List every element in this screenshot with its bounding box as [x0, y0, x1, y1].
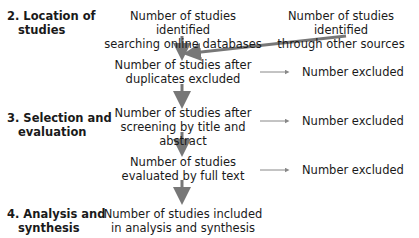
box-text: evaluated by full text	[112, 169, 254, 183]
stage-label: synthesis	[7, 221, 105, 235]
box-text: through other sources	[270, 37, 412, 51]
excluded-label-1: Number excluded	[302, 65, 404, 79]
excluded-label-3: Number excluded	[302, 163, 404, 177]
box-text: Number of studies identified	[270, 9, 412, 37]
box-text: in analysis and synthesis	[102, 221, 264, 235]
stage-selection: 3. Selection and evaluation	[7, 111, 112, 139]
box-full-text: Number of studies evaluated by full text	[112, 155, 254, 183]
box-text: Number of studies included	[102, 207, 264, 221]
box-screening: Number of studies after screening by tit…	[102, 106, 264, 148]
stage-label: 3. Selection and	[7, 111, 112, 125]
excluded-label-2: Number excluded	[302, 114, 404, 128]
stage-label: 4. Analysis and	[7, 207, 105, 221]
box-text: Number of studies after	[102, 106, 264, 120]
box-text: screening by title and abstract	[102, 120, 264, 148]
box-text: searching online databases	[102, 37, 264, 51]
box-text: duplicates excluded	[112, 72, 254, 86]
stage-label: evaluation	[7, 125, 112, 139]
stage-location: 2. Location of studies	[7, 9, 96, 37]
box-duplicates: Number of studies after duplicates exclu…	[112, 58, 254, 86]
box-included: Number of studies included in analysis a…	[102, 207, 264, 235]
stage-label: studies	[7, 23, 96, 37]
box-other-sources: Number of studies identified through oth…	[270, 9, 412, 51]
box-text: Number of studies	[112, 155, 254, 169]
box-text: Number of studies after	[112, 58, 254, 72]
stage-label: 2. Location of	[7, 9, 96, 23]
stage-analysis: 4. Analysis and synthesis	[7, 207, 105, 235]
box-text: Number of studies identified	[102, 9, 264, 37]
box-online-databases: Number of studies identified searching o…	[102, 9, 264, 51]
